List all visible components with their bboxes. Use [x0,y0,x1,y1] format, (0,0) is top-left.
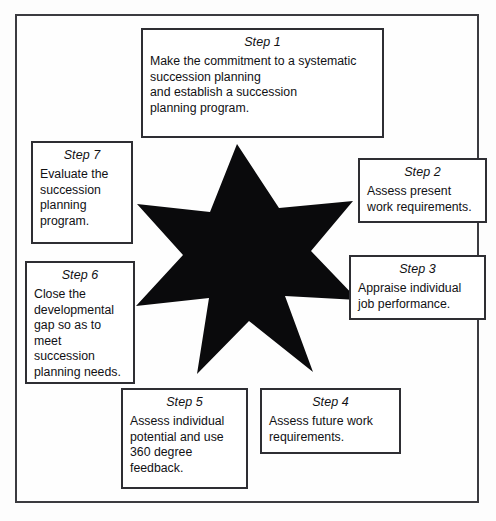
star-polygon [136,144,358,374]
step-box-1[interactable]: Step 1 Make the commitment to a systemat… [141,28,384,138]
step-box-2[interactable]: Step 2 Assess present work requirements. [358,158,487,223]
step-box-4[interactable]: Step 4 Assess future work requirements. [260,388,401,454]
diagram-outer-frame: Step 1 Make the commitment to a systemat… [15,14,479,503]
diagram-canvas: Step 1 Make the commitment to a systemat… [0,0,496,521]
step-body: Assess future work requirements. [262,414,399,448]
step-body: Close the developmental gap so as to mee… [27,287,133,383]
step-title: Step 4 [262,395,399,409]
step-title: Step 2 [360,165,485,179]
step-title: Step 6 [27,268,133,282]
step-body: Assess present work requirements. [360,184,485,218]
step-title: Step 1 [143,35,382,49]
step-body: Evaluate the succession planning program… [33,167,131,232]
step-box-7[interactable]: Step 7 Evaluate the succession planning … [31,141,133,244]
step-body: Appraise individual job performance. [351,281,484,315]
step-body: Make the commitment to a systematic succ… [143,54,382,119]
step-body: Assess individual potential and use 360 … [123,414,246,479]
step-box-3[interactable]: Step 3 Appraise individual job performan… [349,255,486,320]
step-title: Step 7 [33,148,131,162]
step-box-6[interactable]: Step 6 Close the developmental gap so as… [25,261,135,384]
step-title: Step 5 [123,395,246,409]
step-title: Step 3 [351,262,484,276]
step-box-5[interactable]: Step 5 Assess individual potential and u… [121,388,248,489]
